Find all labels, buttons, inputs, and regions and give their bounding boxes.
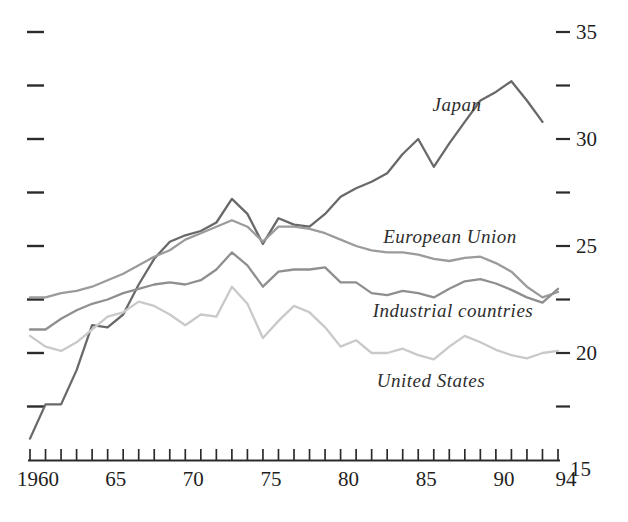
x-axis-label: 75 (260, 467, 281, 491)
y-axis-label: 25 (576, 234, 597, 258)
y-axis-label: 35 (576, 20, 597, 44)
series-label-industrial-countries: Industrial countries (373, 300, 533, 322)
saving-rates-chart: 1960657075808590943530252015 (0, 0, 628, 522)
x-axis-label: 65 (105, 467, 126, 491)
y-axis-label: 20 (576, 341, 597, 365)
x-axis-label: 80 (338, 467, 359, 491)
series-label-european-union: European Union (383, 226, 516, 248)
series-label-japan: Japan (433, 94, 482, 116)
y-axis-label: 15 (570, 457, 591, 481)
x-axis-label: 85 (416, 467, 437, 491)
y-axis-label: 30 (576, 127, 597, 151)
series-label-united-states: United States (377, 370, 485, 392)
x-axis-label: 70 (183, 467, 204, 491)
x-axis-label: 1960 (17, 467, 59, 491)
x-axis-label: 90 (493, 467, 514, 491)
saving-rates-figure: 1960657075808590943530252015 Japan Europ… (0, 0, 628, 522)
